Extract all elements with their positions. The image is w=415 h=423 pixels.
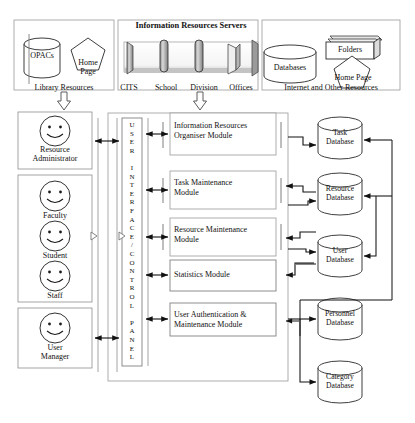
module-label-organiser-line1: Information Resources (174, 121, 278, 130)
control-panel-char: T (122, 277, 142, 284)
server-rack-cits (127, 42, 133, 74)
control-panel-char: U (122, 122, 142, 129)
actor-icon-faculty (40, 181, 70, 211)
connector-resource-module-userdb (288, 249, 316, 252)
control-panel-char: F (122, 208, 142, 215)
actor-icon-student (40, 221, 70, 251)
server-caption-school: School (145, 84, 187, 92)
connector-panel-modules (146, 134, 168, 319)
opacs-label: OPACs (24, 52, 60, 60)
control-panel-char: N (122, 268, 142, 275)
actor-icon-resource-administrator (40, 116, 70, 146)
control-panel-char: P (122, 320, 142, 327)
control-panel-char: N (122, 337, 142, 344)
actor-label-staff: Staff (16, 292, 94, 300)
db-label-personnel-line2: Database (314, 319, 366, 328)
control-panel-char: N (122, 174, 142, 181)
actor-label-user-manager-line2: Manager (16, 353, 94, 361)
servers-heading: Information Resources Servers (116, 22, 266, 31)
db-label-category-line2: Database (314, 382, 366, 391)
control-panel-char: E (122, 346, 142, 353)
module-label-task-line1: Task Maintenance (174, 178, 278, 187)
connector-statistics-userdb (286, 263, 314, 275)
server-rack-division (195, 40, 203, 72)
actor-label-faculty: Faculty (16, 212, 94, 220)
control-panel-char: E (122, 139, 142, 146)
actor-label-resource-administrator-line2: Administrator (10, 155, 100, 163)
db-label-task-line2: Database (316, 138, 364, 147)
module-label-auth-line1: User Authentication & (174, 310, 278, 319)
control-panel-char: C (122, 225, 142, 232)
connector-task-module-resourcedb (288, 201, 316, 205)
internet-home-page-label: Home Page (326, 74, 380, 82)
architecture-diagram: OPACs Home Page Library Resources Inform… (0, 0, 415, 423)
module-label-task-line2: Module (174, 188, 278, 197)
internet-databases-label: Databases (262, 64, 318, 72)
control-panel-char: I (122, 165, 142, 172)
control-panel-char: O (122, 294, 142, 301)
control-panel-char: / (122, 242, 142, 249)
server-caption-cits: CITS (108, 84, 150, 92)
module-label-resource-line1: Resource Maintenance (174, 225, 278, 234)
control-panel-char: E (122, 234, 142, 241)
module-label-resource-line2: Module (174, 235, 278, 244)
library-home-page-label-line2: Page (70, 68, 106, 76)
control-panel-char: O (122, 260, 142, 267)
control-panel-char: R (122, 148, 142, 155)
down-arrow-library (58, 92, 71, 110)
server-caption-offices: Offices (220, 84, 262, 92)
internet-resources-caption: Internet and Other Resources (258, 84, 404, 92)
control-panel-char: S (122, 131, 142, 138)
module-label-statistics: Statistics Module (174, 270, 278, 279)
db-label-resource-line2: Database (316, 194, 364, 203)
server-rack-edge (252, 40, 258, 76)
control-panel-char: E (122, 191, 142, 198)
server-rack-school (160, 40, 168, 72)
actor-icon-staff (40, 261, 70, 291)
db-label-user-line2: Database (316, 256, 364, 265)
down-arrow-servers (194, 92, 207, 110)
control-panel-char: R (122, 285, 142, 292)
internet-folders-label: Folders (326, 46, 374, 54)
module-label-auth-line2: Maintenance Module (174, 320, 278, 329)
control-panel-char: L (122, 303, 142, 310)
control-panel-char: A (122, 328, 142, 335)
connector-organiser-task-db (288, 137, 316, 145)
control-panel-char: L (122, 354, 142, 361)
control-panel-char: C (122, 251, 142, 258)
control-panel-char: T (122, 182, 142, 189)
connector-taskdb-task-module (286, 186, 316, 192)
library-resources-caption: Library Resources (10, 84, 118, 92)
actor-label-student: Student (16, 252, 94, 260)
module-label-organiser-line2: Organiser Module (174, 131, 278, 140)
connector-resourcedb-resource-module (286, 232, 316, 238)
control-panel-char: A (122, 217, 142, 224)
actor-icon-user-manager (40, 313, 70, 343)
control-panel-char: R (122, 199, 142, 206)
